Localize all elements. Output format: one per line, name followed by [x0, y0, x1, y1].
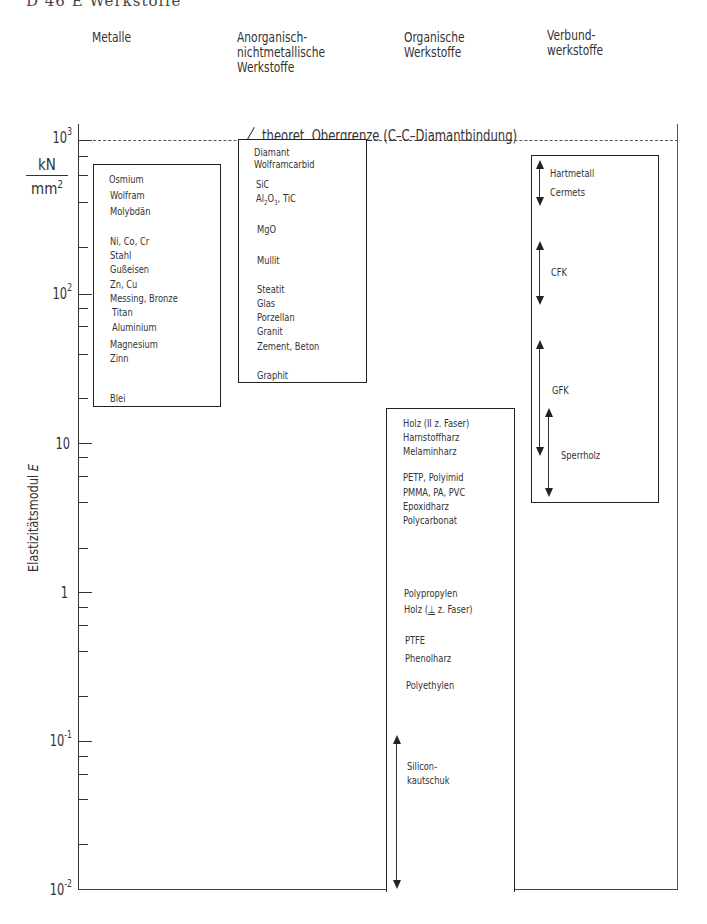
- item-messing-bronze: Messing, Bronze: [110, 292, 178, 304]
- item-sperrholz: Sperrholz: [561, 449, 600, 461]
- range-arrow-gfk: [539, 342, 540, 454]
- item-polyethylen: Polyethylen: [406, 679, 454, 691]
- item-zn-cu: Zn, Cu: [110, 278, 137, 290]
- item-epoxidharz: Epoxidharz: [403, 500, 449, 512]
- range-arrow-cfk: [539, 243, 540, 303]
- column-heading-metalle: Metalle: [92, 30, 131, 45]
- item-porzellan: Porzellan: [257, 311, 295, 323]
- minor-tick: [78, 625, 88, 626]
- item-zinn: Zinn: [110, 352, 129, 364]
- item-harnstoffharz: Harnstoffharz: [403, 431, 459, 443]
- item-mgo: MgO: [257, 223, 276, 235]
- minor-tick: [78, 844, 88, 845]
- item-osmium: Osmium: [109, 173, 144, 185]
- minor-tick: [78, 247, 88, 248]
- item-stahl: Stahl: [110, 249, 131, 261]
- axis-unit: kN mm2: [22, 157, 72, 198]
- item-melaminharz: Melaminharz: [403, 445, 457, 457]
- minor-tick: [78, 398, 88, 399]
- item-diamant: Diamant: [254, 146, 290, 158]
- minor-tick: [78, 607, 88, 608]
- minor-tick: [78, 696, 88, 697]
- tick-label-1e0: 1: [26, 584, 69, 602]
- item-holz-parallel: Holz (II z. Faser): [403, 417, 469, 429]
- minor-tick: [78, 548, 88, 549]
- item-titan: Titan: [112, 306, 133, 318]
- item-al2o3-tic: Al2O3, TiC: [256, 192, 296, 209]
- item-holz-perpendicular: Holz (⊥ z. Faser): [404, 603, 473, 615]
- item-cfk: CFK: [551, 266, 567, 278]
- item-silicon: Silicon-: [407, 760, 437, 772]
- tick-1e3: [78, 140, 92, 141]
- item-steatit: Steatit: [257, 283, 285, 295]
- item-aluminium: Aluminium: [112, 321, 157, 333]
- y-axis-title: Elastizitätsmodul E: [25, 451, 41, 586]
- item-ptfe: PTFE: [405, 634, 425, 646]
- minor-tick: [78, 354, 88, 355]
- column-heading-verbund: Verbund- werkstoffe: [547, 28, 603, 58]
- item-kautschuk: kautschuk: [407, 774, 450, 786]
- minor-tick: [78, 651, 88, 652]
- item-mullit: Mullit: [257, 254, 280, 266]
- item-blei: Blei: [110, 392, 125, 404]
- tick-label-1e-2: 10-2: [30, 880, 73, 899]
- tick-1e0: [78, 592, 92, 593]
- range-arrow-sperrholz: [548, 410, 549, 495]
- minor-tick: [78, 476, 88, 477]
- item-magnesium: Magnesium: [110, 338, 158, 350]
- item-petp-polyimid: PETP, Polyimid: [403, 471, 464, 483]
- tick-label-1e-1: 10-1: [30, 731, 73, 750]
- item-hartmetall: Hartmetall: [550, 167, 594, 179]
- minor-tick: [78, 202, 88, 203]
- item-wolfram: Wolfram: [110, 189, 145, 201]
- minor-tick: [78, 502, 88, 503]
- item-granit: Granit: [257, 325, 283, 337]
- item-gusseisen: Gußeisen: [110, 263, 149, 275]
- unit-numerator: kN: [26, 157, 68, 176]
- minor-tick: [78, 457, 88, 458]
- item-gfk: GFK: [552, 384, 569, 396]
- page-header-fragment: D 46 E Werkstoffe: [26, 0, 181, 10]
- range-arrow-siliconkautschuk: [396, 737, 397, 887]
- item-polypropylen: Polypropylen: [404, 587, 457, 599]
- minor-tick: [78, 308, 88, 309]
- tick-label-1e2: 102: [30, 284, 73, 303]
- unit-denominator: mm2: [31, 180, 63, 198]
- tick-1e2: [78, 294, 92, 295]
- tick-1e1: [78, 443, 92, 444]
- item-graphit: Graphit: [257, 369, 288, 381]
- item-cermets: Cermets: [550, 186, 585, 198]
- column-heading-organisch: Organische Werkstoffe: [404, 30, 465, 60]
- item-phenolharz: Phenolharz: [405, 652, 451, 664]
- item-wolframcarbid: Wolframcarbid: [254, 158, 315, 170]
- item-glas: Glas: [257, 297, 275, 309]
- minor-tick: [78, 756, 88, 757]
- item-polycarbonat: Polycarbonat: [403, 514, 457, 526]
- item-pmma-pa-pvc: PMMA, PA, PVC: [403, 486, 465, 498]
- range-arrow-hartmetall-cermets: [539, 162, 540, 204]
- tick-label-1e3: 103: [30, 128, 73, 147]
- item-molybdaen: Molybdän: [110, 205, 150, 217]
- item-zement-beton: Zement, Beton: [257, 340, 319, 352]
- column-heading-anorganisch: Anorganisch- nichtmetallische Werkstoffe: [237, 30, 325, 75]
- minor-tick: [78, 799, 88, 800]
- minor-tick: [78, 774, 88, 775]
- item-sic: SiC: [256, 178, 269, 190]
- tick-1e-1: [78, 741, 92, 742]
- minor-tick: [78, 175, 88, 176]
- item-ni-co-cr: Ni, Co, Cr: [110, 235, 149, 247]
- minor-tick: [78, 156, 88, 157]
- minor-tick: [78, 326, 88, 327]
